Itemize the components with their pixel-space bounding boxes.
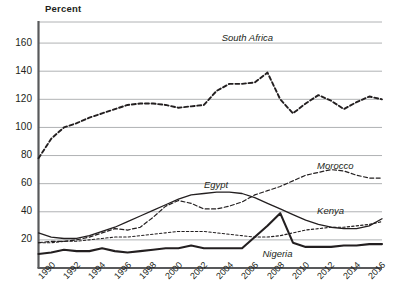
series-label-nigeria: Nigeria: [262, 248, 292, 259]
y-axis-tick-label: 120: [2, 93, 32, 104]
chart-figure: Percent 20406080100120140160199019921994…: [0, 0, 396, 302]
y-axis-tick-label: 140: [2, 65, 32, 76]
line-chart-canvas: [0, 0, 396, 302]
y-axis-tick-label: 60: [2, 177, 32, 188]
y-axis-tick-label: 20: [2, 233, 32, 244]
series-line-nigeria: [39, 213, 383, 254]
y-axis-tick-label: 100: [2, 121, 32, 132]
y-axis-tick-label: 80: [2, 149, 32, 160]
series-label-egypt: Egypt: [204, 179, 228, 190]
series-label-south-africa: South Africa: [222, 32, 273, 43]
series-label-kenya: Kenya: [317, 205, 344, 216]
series-label-morocco: Morocco: [317, 160, 353, 171]
series-line-south-africa: [39, 73, 383, 159]
y-axis-tick-label: 160: [2, 37, 32, 48]
y-axis-tick-label: 40: [2, 205, 32, 216]
